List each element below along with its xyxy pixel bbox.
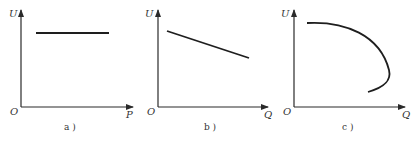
x-axis-label: Q	[264, 109, 272, 120]
figure: U O P a ) U O Q b ) U O Q c )	[0, 0, 418, 143]
y-axis-label: U	[281, 8, 290, 19]
u-q-nose-curve	[307, 23, 390, 92]
panel-caption: b )	[204, 122, 216, 132]
y-axis-label: U	[145, 8, 154, 19]
u-decreasing-line	[167, 31, 249, 58]
x-axis-label: Q	[402, 109, 410, 120]
origin-label: O	[283, 106, 291, 117]
panel-a: U O P a )	[9, 8, 133, 132]
x-axis-label: P	[125, 109, 133, 120]
panel-b: U O Q b )	[145, 8, 272, 132]
origin-label: O	[147, 106, 155, 117]
panel-caption: c )	[342, 122, 353, 132]
panel-caption: a )	[64, 122, 76, 132]
panel-c: U O Q c )	[281, 8, 410, 132]
origin-label: O	[10, 106, 18, 117]
y-axis-label: U	[9, 8, 18, 19]
